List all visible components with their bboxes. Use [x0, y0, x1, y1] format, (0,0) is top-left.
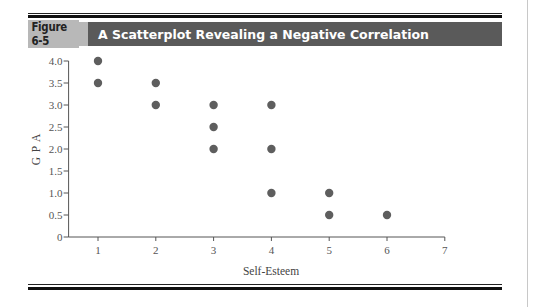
bottom-rule: [28, 284, 502, 290]
x-tick-label: 6: [384, 244, 390, 256]
x-tick-label: 5: [326, 244, 332, 256]
data-point: [325, 189, 333, 197]
y-tick-label: 2.0: [49, 143, 63, 155]
x-axis-title: Self-Esteem: [243, 265, 299, 277]
y-tick-label: 0.5: [49, 209, 63, 221]
data-point: [209, 101, 217, 109]
y-tick-label: 1.5: [49, 165, 63, 177]
data-points: [94, 57, 391, 219]
data-point: [267, 101, 275, 109]
y-tick-label: 1.0: [49, 187, 63, 199]
x-tick-label: 4: [269, 244, 275, 256]
x-tick-label: 2: [153, 244, 159, 256]
y-tick-label: 3.5: [49, 77, 63, 89]
x-tick-label: 7: [442, 244, 448, 256]
y-axis-title: G P A: [30, 133, 42, 166]
data-point: [152, 101, 160, 109]
data-point: [94, 79, 102, 87]
y-tick-label: 0: [57, 231, 63, 243]
scatter-chart: 00.51.01.52.02.53.03.54.01234567 Self-Es…: [0, 0, 536, 307]
data-point: [209, 123, 217, 131]
x-tick-label: 3: [211, 244, 217, 256]
axes: 00.51.01.52.02.53.03.54.01234567: [49, 55, 448, 257]
data-point: [209, 145, 217, 153]
data-point: [325, 211, 333, 219]
y-tick-label: 2.5: [49, 121, 63, 133]
y-tick-label: 4.0: [49, 55, 63, 67]
x-tick-label: 1: [95, 244, 101, 256]
y-tick-label: 3.0: [49, 99, 63, 111]
data-point: [94, 57, 102, 65]
data-point: [383, 211, 391, 219]
data-point: [152, 79, 160, 87]
data-point: [267, 189, 275, 197]
data-point: [267, 145, 275, 153]
